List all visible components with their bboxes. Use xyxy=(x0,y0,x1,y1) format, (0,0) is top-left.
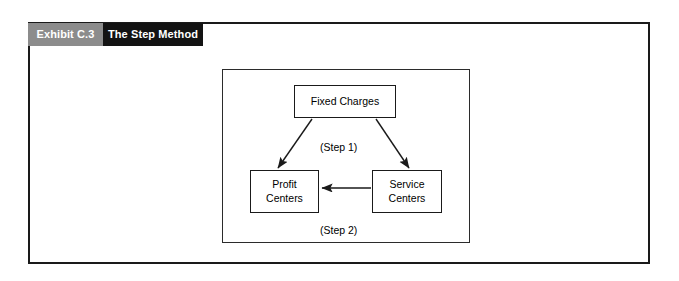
exhibit-number-label: Exhibit C.3 xyxy=(28,23,103,46)
node-fixed-charges: Fixed Charges xyxy=(294,85,396,118)
node-service-centers-line-2: Centers xyxy=(389,192,426,204)
node-service-centers-label: Service Centers xyxy=(389,178,426,204)
node-service-centers: Service Centers xyxy=(372,170,442,213)
node-profit-centers: Profit Centers xyxy=(250,170,319,213)
step-2-label: (Step 2) xyxy=(320,224,357,236)
node-profit-centers-label: Profit Centers xyxy=(266,178,303,204)
exhibit-title-label: The Step Method xyxy=(103,23,203,46)
node-fixed-charges-label: Fixed Charges xyxy=(311,95,379,108)
node-service-centers-line-1: Service xyxy=(389,178,424,190)
step-1-label: (Step 1) xyxy=(320,141,357,153)
node-profit-centers-line-2: Centers xyxy=(266,192,303,204)
node-profit-centers-line-1: Profit xyxy=(272,178,297,190)
exhibit-header-band: Exhibit C.3 The Step Method xyxy=(28,23,203,46)
